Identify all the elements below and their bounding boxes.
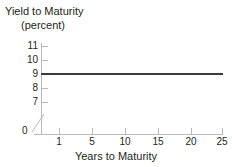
x-tick-25: [222, 128, 223, 134]
y-tick-label-8: 8: [18, 83, 38, 93]
x-tick-label-15: 15: [147, 136, 169, 147]
y-tick-7: [42, 102, 48, 103]
x-tick-label-10: 10: [114, 136, 136, 147]
x-tick-20: [191, 128, 192, 134]
x-tick-15: [158, 128, 159, 134]
x-axis-line: [34, 134, 223, 135]
y-tick-8: [42, 88, 48, 89]
y-tick-10: [42, 60, 48, 61]
x-axis-label: Years to Maturity: [0, 150, 232, 162]
y-tick-label-10: 10: [18, 55, 38, 65]
y-tick-11: [42, 46, 48, 47]
x-tick-label-1: 1: [48, 136, 70, 147]
y-axis-zero-label: 0: [22, 126, 28, 136]
x-tick-label-5: 5: [81, 136, 103, 147]
yield-curve-chart: Yield to Maturity (percent) 11 10 9 8 7 …: [0, 0, 232, 167]
y-tick-label-group: 11 10 9 8 7: [14, 0, 38, 167]
x-tick-label-25: 25: [211, 136, 232, 147]
x-tick-1: [59, 128, 60, 134]
axis-break-icon: [30, 104, 46, 134]
x-tick-label-20: 20: [180, 136, 202, 147]
x-tick-10: [125, 128, 126, 134]
y-tick-label-9: 9: [18, 69, 38, 79]
x-tick-5: [92, 128, 93, 134]
y-tick-label-11: 11: [18, 41, 38, 51]
series-flat-yield-curve: [41, 73, 223, 75]
